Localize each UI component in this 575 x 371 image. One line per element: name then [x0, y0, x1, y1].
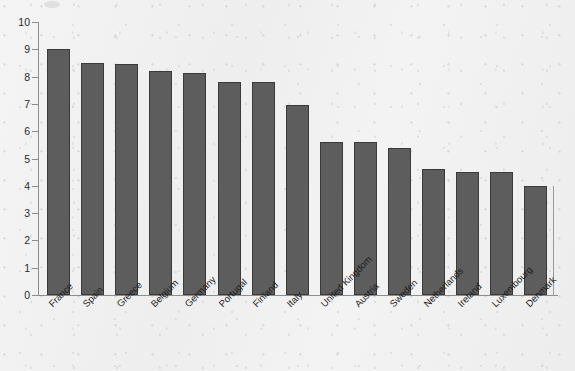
y-axis-tick-mark: [32, 268, 39, 269]
y-axis-tick-label: 9: [4, 44, 30, 55]
y-axis-tick-label: 1: [4, 263, 30, 274]
y-axis-tick-label: 3: [4, 208, 30, 219]
y-axis-tick-mark: [32, 131, 39, 132]
bar-chart: 012345678910 FranceSpainGreeceBelgiumGer…: [0, 0, 575, 371]
bar: [81, 63, 104, 295]
y-axis-tick-label: 0: [4, 290, 30, 301]
bar: [252, 82, 275, 295]
scan-artifact: [44, 1, 60, 8]
y-axis-tick-label: 6: [4, 126, 30, 137]
bar: [524, 186, 547, 295]
bar: [47, 49, 70, 295]
bar: [183, 73, 206, 295]
y-axis-tick-mark: [32, 77, 39, 78]
y-axis-tick-mark: [32, 213, 39, 214]
y-axis-tick-mark: [32, 22, 39, 23]
y-axis-tick-label: 4: [4, 181, 30, 192]
y-axis-tick-mark: [32, 159, 39, 160]
bar: [218, 82, 241, 295]
y-axis-tick-label: 10: [4, 17, 30, 28]
y-axis-tick-mark: [32, 104, 39, 105]
bar: [149, 71, 172, 295]
bar: [115, 64, 138, 295]
y-axis-tick-mark: [32, 240, 39, 241]
y-axis-tick-mark: [32, 49, 39, 50]
y-axis-tick-label: 8: [4, 72, 30, 83]
plot-area: 012345678910 FranceSpainGreeceBelgiumGer…: [0, 0, 575, 371]
bar: [286, 105, 309, 295]
y-axis-tick-mark: [32, 295, 39, 296]
y-axis-tick-label: 2: [4, 235, 30, 246]
bar: [490, 172, 513, 295]
y-axis-tick-label: 5: [4, 154, 30, 165]
bar: [422, 169, 445, 295]
y-axis-tick-mark: [32, 186, 39, 187]
bar: [320, 142, 343, 295]
y-axis-tick-label: 7: [4, 99, 30, 110]
bar: [388, 148, 411, 295]
